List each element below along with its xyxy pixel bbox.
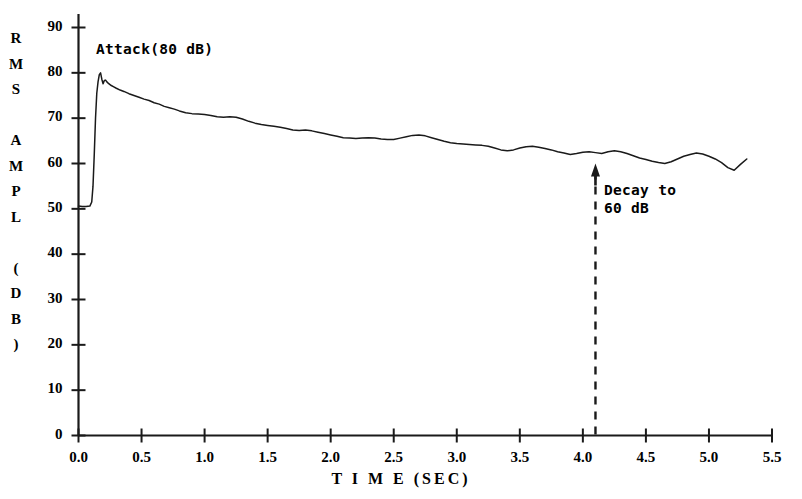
x-tick-label: 4.5 (623, 449, 669, 466)
y-tick-label: 10 (29, 380, 63, 397)
y-tick-label: 70 (29, 108, 63, 125)
decay-annotation-line2: 60 dB (604, 200, 649, 216)
plot-area (0, 0, 802, 499)
x-axis-title: T I M E (SEC) (0, 470, 802, 488)
x-tick-label: 0.5 (119, 449, 165, 466)
y-tick-label: 90 (29, 18, 63, 35)
decay-arrow-icon (591, 164, 600, 186)
x-tick-label: 4.0 (560, 449, 606, 466)
x-tick-label: 1.5 (245, 449, 291, 466)
y-tick-label: 40 (29, 244, 63, 261)
x-tick-label: 3.0 (434, 449, 480, 466)
y-tick-label: 50 (29, 199, 63, 216)
x-tick-label: 2.0 (308, 449, 354, 466)
decay-annotation-label: Decay to 60 dB (604, 181, 676, 217)
x-tick-label: 5.5 (749, 449, 795, 466)
y-tick-label: 80 (29, 63, 63, 80)
attack-annotation-label: Attack(80 dB) (96, 40, 213, 58)
y-tick-label: 0 (29, 426, 63, 443)
y-tick-label: 60 (29, 154, 63, 171)
chart-canvas: R M S A M P L ( D B ) T I M E (SEC) Atta… (0, 0, 802, 499)
y-axis-title: R M S A M P L ( D B ) (4, 26, 28, 358)
decay-annotation-line1: Decay to (604, 182, 676, 198)
x-tick-label: 1.0 (182, 449, 228, 466)
x-tick-label: 2.5 (371, 449, 417, 466)
x-tick-label: 5.0 (686, 449, 732, 466)
y-tick-label: 20 (29, 335, 63, 352)
x-tick-label: 0.0 (56, 449, 102, 466)
y-tick-label: 30 (29, 290, 63, 307)
decay-marker (591, 164, 600, 436)
x-tick-label: 3.5 (497, 449, 543, 466)
axes-group (79, 14, 773, 436)
